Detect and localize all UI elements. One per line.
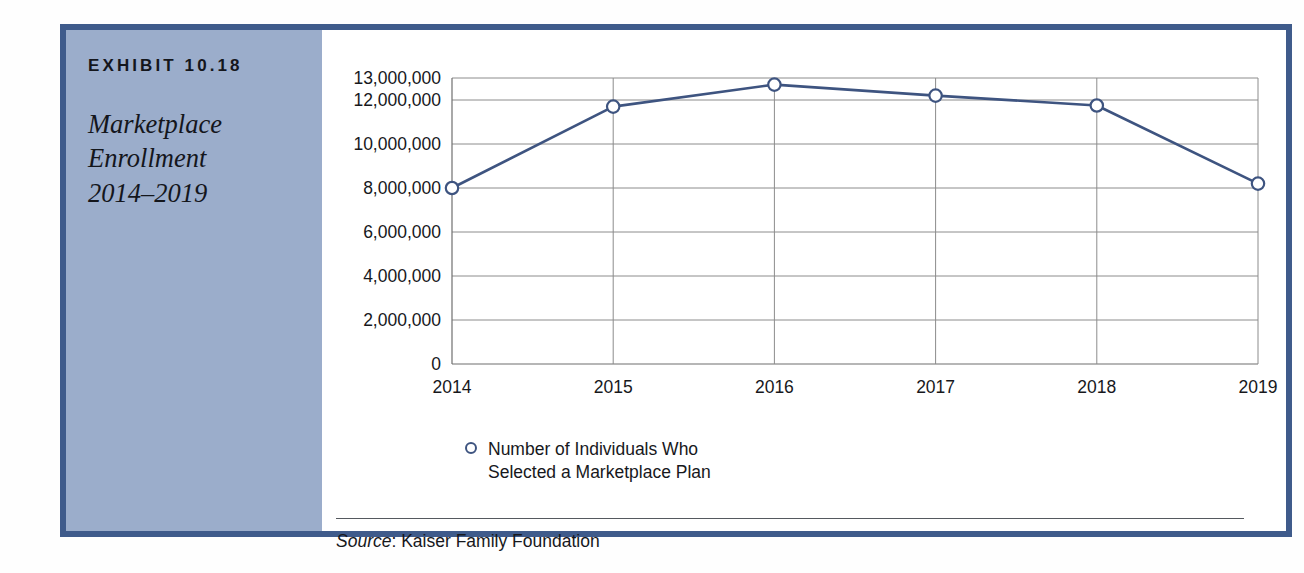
exhibit-title: Marketplace Enrollment 2014–2019: [88, 107, 322, 210]
series-data-point: [1252, 177, 1264, 189]
series-data-point: [446, 182, 458, 194]
x-axis-tick-label: 2015: [594, 377, 633, 397]
y-axis-tick-label: 12,000,000: [353, 90, 441, 110]
y-axis-tick-label: 6,000,000: [363, 222, 441, 242]
series-data-point: [607, 100, 619, 112]
grid-vertical: [613, 78, 1258, 364]
source-separator: :: [391, 531, 401, 551]
exhibit-page: EXHIBIT 10.18 Marketplace Enrollment 201…: [0, 0, 1304, 573]
legend-marker-icon: [465, 442, 477, 454]
legend-label-line-2: Selected a Marketplace Plan: [488, 461, 711, 484]
line-chart: 02,000,0004,000,0006,000,0008,000,00010,…: [322, 30, 1286, 470]
y-axis-tick-label: 2,000,000: [363, 310, 441, 330]
exhibit-title-line-1: Marketplace: [88, 107, 322, 141]
x-axis-tick-label: 2019: [1239, 377, 1278, 397]
x-axis-tick-label: 2016: [755, 377, 794, 397]
exhibit-title-line-3: 2014–2019: [88, 176, 322, 210]
exhibit-frame: EXHIBIT 10.18 Marketplace Enrollment 201…: [60, 24, 1292, 537]
y-axis-labels: 02,000,0004,000,0006,000,0008,000,00010,…: [353, 68, 441, 374]
source-note: Source: Kaiser Family Foundation: [336, 531, 600, 552]
series-data-point: [1091, 99, 1103, 111]
series-data-point: [929, 89, 941, 101]
x-axis-labels: 201420152016201720182019: [433, 377, 1278, 397]
y-axis-tick-label: 10,000,000: [353, 134, 441, 154]
source-prefix: Source: [336, 531, 391, 551]
x-axis-tick-label: 2014: [433, 377, 472, 397]
chart-legend: Number of Individuals Who Selected a Mar…: [465, 438, 711, 485]
y-axis-tick-label: 13,000,000: [353, 68, 441, 88]
y-axis-tick-label: 0: [431, 354, 441, 374]
series-data-point: [768, 78, 780, 90]
y-axis-tick-label: 4,000,000: [363, 266, 441, 286]
source-text: Kaiser Family Foundation: [401, 531, 599, 551]
series-group: [446, 78, 1264, 194]
chart-svg: 02,000,0004,000,0006,000,0008,000,00010,…: [322, 30, 1286, 470]
y-axis-tick-label: 8,000,000: [363, 178, 441, 198]
chart-panel: 02,000,0004,000,0006,000,0008,000,00010,…: [322, 30, 1286, 531]
source-divider: [336, 518, 1244, 519]
exhibit-title-line-2: Enrollment: [88, 141, 322, 175]
legend-label: Number of Individuals Who Selected a Mar…: [488, 438, 711, 485]
x-axis-tick-label: 2017: [916, 377, 955, 397]
x-axis-tick-label: 2018: [1077, 377, 1116, 397]
legend-label-line-1: Number of Individuals Who: [488, 438, 711, 461]
exhibit-number: EXHIBIT 10.18: [88, 56, 322, 76]
grid-horizontal: [452, 78, 1258, 364]
exhibit-caption-panel: EXHIBIT 10.18 Marketplace Enrollment 201…: [66, 30, 322, 531]
